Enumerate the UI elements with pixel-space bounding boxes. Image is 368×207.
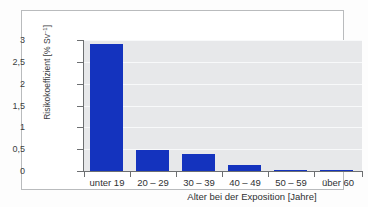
x-category-20-29: 20 – 29 [130,177,176,188]
gridline-2-5 [84,62,362,63]
x-category-30-39: 30 – 39 [176,177,222,188]
x-category-ueber-60: über 60 [314,177,362,188]
y-tick-label-0: 0 [20,167,25,176]
y-tick-3 [77,40,84,41]
y-tick-label-2: 2 [20,80,25,89]
bar-50-59 [274,170,307,171]
y-axis-title-tail: ] [42,25,52,27]
figure-frame: Risikokoeffizient [% Sv–1] 3 2,5 [21,10,344,190]
bar-30-39 [182,154,215,171]
bar-ueber-60 [320,170,353,171]
gridline-1 [84,127,362,128]
y-tick-1-5 [77,106,84,107]
y-tick-label-2-5: 2,5 [12,58,25,67]
y-tick-2 [77,84,84,85]
y-tick-label-1: 1 [20,123,25,132]
x-axis-line [83,171,363,172]
gridline-3 [84,40,362,41]
bar-20-29 [136,150,169,171]
y-tick-label-1-5: 1,5 [12,102,25,111]
x-category-50-59: 50 – 59 [268,177,314,188]
y-tick-0-5 [77,149,84,150]
y-tick-1 [77,127,84,128]
gridline-0-5 [84,149,362,150]
gridline-1-5 [84,106,362,107]
x-axis-title: Alter bei der Exposition [Jahre] [138,191,366,202]
x-tick-6 [362,172,363,177]
plot-area [84,40,362,171]
y-tick-2-5 [77,62,84,63]
x-category-40-49: 40 – 49 [222,177,268,188]
gridline-2 [84,84,362,85]
bar-unter-19 [90,44,123,171]
chart-page: Risikokoeffizient [% Sv–1] 3 2,5 [0,0,368,207]
y-tick-label-3: 3 [20,36,25,45]
x-category-unter-19: unter 19 [84,177,130,188]
y-tick-0 [77,171,84,172]
y-axis-title: Risikokoeffizient [% Sv–1] [42,16,53,128]
y-axis-title-exponent: –1 [42,27,48,34]
y-tick-label-0-5: 0,5 [12,145,25,154]
bar-40-49 [228,165,261,171]
y-axis-title-text: Risikokoeffizient [% Sv [42,34,52,120]
